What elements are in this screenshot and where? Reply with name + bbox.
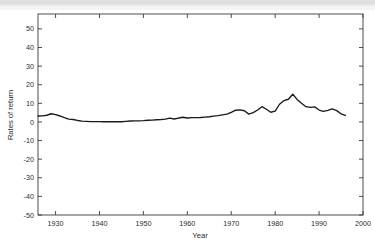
y-axis-ticks: -50-40-30-20-1001020304050 bbox=[24, 24, 363, 219]
x-tick-label: 1930 bbox=[48, 219, 64, 228]
y-tick-label: -10 bbox=[24, 136, 34, 145]
y-tick-label: 20 bbox=[26, 80, 34, 89]
x-tick-label: 1970 bbox=[223, 219, 239, 228]
series-group bbox=[38, 94, 345, 122]
y-axis-title: Rates of return bbox=[6, 90, 15, 140]
x-tick-label: 1980 bbox=[267, 219, 283, 228]
line-chart: -50-40-30-20-1001020304050 1930194019501… bbox=[0, 0, 375, 242]
plot-frame bbox=[38, 14, 363, 215]
y-tick-label: -30 bbox=[24, 173, 34, 182]
y-tick-label: -40 bbox=[24, 192, 34, 201]
x-tick-label: 1940 bbox=[91, 219, 107, 228]
y-tick-label: 0 bbox=[30, 118, 34, 127]
x-tick-label: 1960 bbox=[179, 219, 195, 228]
data-series-line bbox=[38, 94, 345, 122]
chart-figure: -50-40-30-20-1001020304050 1930194019501… bbox=[0, 0, 375, 242]
y-tick-label: -50 bbox=[24, 211, 34, 220]
x-axis-title: Year bbox=[192, 231, 208, 240]
x-tick-label: 1950 bbox=[135, 219, 151, 228]
x-tick-label: 1990 bbox=[311, 219, 327, 228]
x-tick-label: 2000 bbox=[355, 219, 371, 228]
y-tick-label: 30 bbox=[26, 62, 34, 71]
y-tick-label: 40 bbox=[26, 43, 34, 52]
y-tick-label: 50 bbox=[26, 24, 34, 33]
y-tick-label: -20 bbox=[24, 155, 34, 164]
y-tick-label: 10 bbox=[26, 99, 34, 108]
